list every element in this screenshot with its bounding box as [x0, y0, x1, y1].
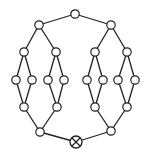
node-RLb: [91, 103, 99, 111]
node-a5: [83, 76, 91, 84]
node-RR: [123, 48, 131, 56]
node-R1: [107, 21, 115, 29]
sink-crossed-circle-icon: [70, 136, 82, 148]
node-L1: [35, 21, 43, 29]
node-RRb: [123, 103, 131, 111]
node-a3: [44, 76, 52, 84]
node-a1: [12, 76, 20, 84]
node-LR: [52, 48, 60, 56]
node-RL: [91, 48, 99, 56]
node-LLb: [20, 103, 28, 111]
node-a7: [114, 76, 122, 84]
node-a4: [60, 76, 68, 84]
node-a6: [99, 76, 107, 84]
node-LRb: [53, 103, 61, 111]
node-a8: [131, 76, 139, 84]
node-top: [71, 10, 79, 18]
edge-top-R1: [75, 14, 111, 25]
graph-diagram: [0, 0, 148, 157]
node-LL: [20, 48, 28, 56]
node-L2: [36, 128, 44, 136]
nodes-layer: [12, 10, 139, 148]
edge-top-L1: [39, 14, 75, 25]
node-R2: [107, 127, 115, 135]
node-a2: [28, 76, 36, 84]
